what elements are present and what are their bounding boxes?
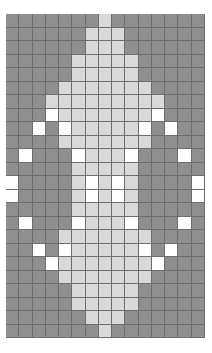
heatmap-cell (165, 271, 178, 285)
heatmap-cell (72, 244, 85, 258)
heatmap-cell (165, 257, 178, 271)
heatmap-cell (19, 109, 32, 123)
heatmap-cell (125, 203, 138, 217)
heatmap-cell (33, 230, 46, 244)
heatmap-cell (6, 257, 19, 271)
heatmap-cell (99, 41, 112, 55)
heatmap-cell (86, 271, 99, 285)
heatmap-cell (165, 190, 178, 204)
heatmap-cell (112, 41, 125, 55)
heatmap-cell (59, 176, 72, 190)
heatmap-cell (46, 325, 59, 339)
heatmap-cell (86, 68, 99, 82)
heatmap-cell (6, 298, 19, 312)
heatmap-cell (86, 257, 99, 271)
heatmap-cell (178, 298, 191, 312)
heatmap-cell (165, 68, 178, 82)
heatmap-cell (72, 203, 85, 217)
heatmap-cell (59, 284, 72, 298)
heatmap-cell (99, 163, 112, 177)
heatmap-cell (99, 136, 112, 150)
heatmap-cell (192, 244, 205, 258)
heatmap-cell (165, 217, 178, 231)
heatmap-cell (72, 176, 85, 190)
heatmap-cell (19, 28, 32, 42)
heatmap-cell (59, 149, 72, 163)
heatmap-cell (112, 163, 125, 177)
heatmap-cell (125, 284, 138, 298)
heatmap-cell (46, 230, 59, 244)
heatmap-cell (19, 271, 32, 285)
heatmap-cell (86, 109, 99, 123)
heatmap-cell (6, 122, 19, 136)
heatmap-cell (192, 176, 205, 190)
heatmap-cell (6, 28, 19, 42)
heatmap-cell (152, 230, 165, 244)
heatmap-cell (72, 28, 85, 42)
heatmap-cell (112, 109, 125, 123)
heatmap-cell (19, 298, 32, 312)
heatmap-cell (112, 203, 125, 217)
heatmap-cell (139, 14, 152, 28)
heatmap-cell (125, 311, 138, 325)
heatmap-cell (139, 244, 152, 258)
heatmap-cell (72, 230, 85, 244)
heatmap-cell (165, 230, 178, 244)
heatmap-cell (86, 163, 99, 177)
heatmap-cell (19, 190, 32, 204)
heatmap-cell (165, 82, 178, 96)
heatmap-cell (178, 14, 191, 28)
heatmap-cell (139, 203, 152, 217)
heatmap-cell (99, 95, 112, 109)
heatmap-cell (125, 109, 138, 123)
heatmap-cell (72, 149, 85, 163)
heatmap-figure (0, 0, 212, 353)
heatmap-cell (125, 14, 138, 28)
heatmap-cell (125, 122, 138, 136)
heatmap-cell (46, 298, 59, 312)
heatmap-cell (59, 217, 72, 231)
heatmap-cell (33, 55, 46, 69)
heatmap-cell (178, 82, 191, 96)
heatmap-cell (46, 284, 59, 298)
heatmap-cell (99, 284, 112, 298)
heatmap-cell (72, 68, 85, 82)
heatmap-cell (165, 325, 178, 339)
heatmap-cell (59, 109, 72, 123)
heatmap-cell (125, 271, 138, 285)
heatmap-cell (6, 217, 19, 231)
heatmap-cell (139, 311, 152, 325)
heatmap-cell (59, 136, 72, 150)
heatmap-cell (6, 109, 19, 123)
heatmap-cell (192, 217, 205, 231)
heatmap-cell (139, 163, 152, 177)
heatmap-cell (165, 176, 178, 190)
heatmap-cell (125, 217, 138, 231)
heatmap-cell (139, 122, 152, 136)
heatmap-cell (19, 55, 32, 69)
heatmap-cell (125, 149, 138, 163)
heatmap-cell (33, 325, 46, 339)
heatmap-cell (112, 14, 125, 28)
heatmap-cell (178, 325, 191, 339)
heatmap-cell (33, 28, 46, 42)
heatmap-cell (112, 55, 125, 69)
heatmap-cell (6, 230, 19, 244)
heatmap-cell (72, 163, 85, 177)
heatmap-cell (178, 55, 191, 69)
heatmap-cell (33, 163, 46, 177)
heatmap-cell (99, 28, 112, 42)
heatmap-cell (112, 28, 125, 42)
heatmap-cell (152, 176, 165, 190)
heatmap-cell (178, 257, 191, 271)
heatmap-cell (125, 95, 138, 109)
heatmap-cell (192, 203, 205, 217)
heatmap-cell (152, 55, 165, 69)
heatmap-cell (59, 230, 72, 244)
heatmap-cell (125, 325, 138, 339)
heatmap-cell (192, 284, 205, 298)
heatmap-cell (112, 298, 125, 312)
heatmap-cell (99, 55, 112, 69)
heatmap-cell (86, 325, 99, 339)
heatmap-cell (139, 109, 152, 123)
